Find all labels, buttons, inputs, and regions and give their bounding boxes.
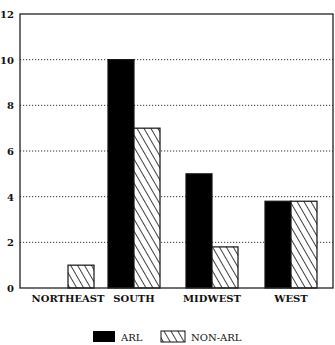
bar-west-arl	[265, 201, 291, 288]
x-tick-label: NORTHEAST	[32, 293, 105, 304]
y-tick-label: 12	[0, 9, 14, 20]
y-tick-label: 8	[7, 100, 14, 111]
legend-label-non-arl: NON-ARL	[191, 332, 242, 343]
x-tick-label: SOUTH	[113, 293, 155, 304]
bar-south-non-arl	[134, 128, 160, 288]
bar-midwest-arl	[186, 174, 212, 288]
legend-label-arl: ARL	[120, 332, 143, 343]
x-axis-labels: NORTHEASTSOUTHMIDWESTWEST	[32, 293, 309, 304]
y-tick-label: 10	[0, 55, 14, 66]
legend-swatch-non-arl	[161, 331, 185, 342]
y-tick-label: 4	[7, 192, 14, 203]
bar-south-arl	[108, 60, 134, 288]
y-tick-label: 2	[7, 237, 14, 248]
legend-swatch-arl	[93, 331, 115, 342]
bar-chart: 024681012 NORTHEASTSOUTHMIDWESTWEST ARL …	[0, 0, 335, 345]
bar-northeast-non-arl	[68, 265, 94, 288]
x-tick-label: WEST	[273, 293, 308, 304]
bar-midwest-non-arl	[212, 247, 238, 288]
y-tick-label: 6	[7, 146, 14, 157]
x-tick-label: MIDWEST	[183, 293, 241, 304]
legend: ARL NON-ARL	[93, 331, 242, 343]
y-tick-label: 0	[7, 283, 14, 294]
y-axis-ticks: 024681012	[0, 9, 14, 294]
bar-west-non-arl	[291, 201, 317, 288]
bars	[68, 60, 317, 288]
